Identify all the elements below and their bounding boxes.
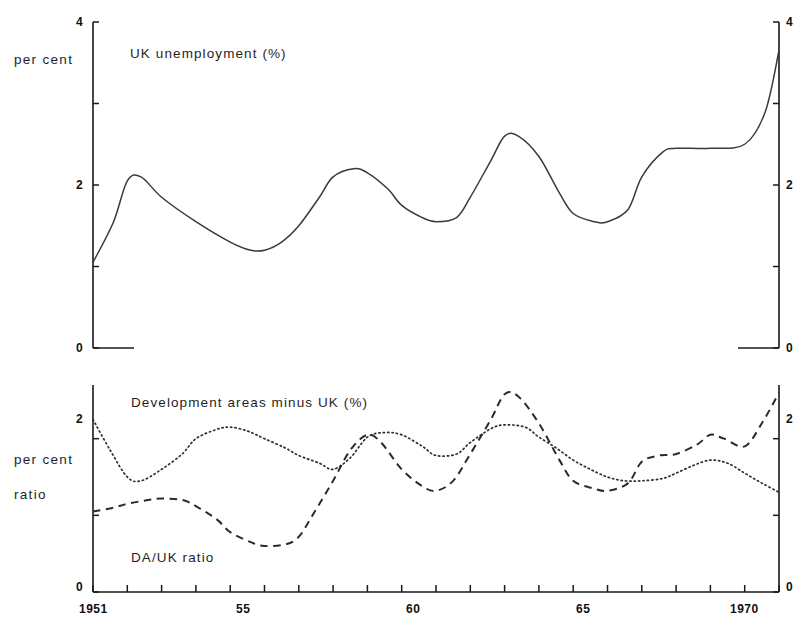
bottom-chart-plot (0, 374, 808, 634)
figure-root: per cent UK unemployment (%) 4 2 0 4 2 0… (0, 0, 808, 634)
bottom-chart-line-development-areas-minus-uk (93, 420, 779, 493)
top-chart-axes (93, 22, 779, 348)
bottom-chart-axes (93, 385, 779, 592)
bottom-chart-line-da-uk-ratio (93, 392, 779, 546)
top-chart-line-uk-unemployment (93, 51, 779, 263)
top-chart-plot (0, 0, 808, 370)
